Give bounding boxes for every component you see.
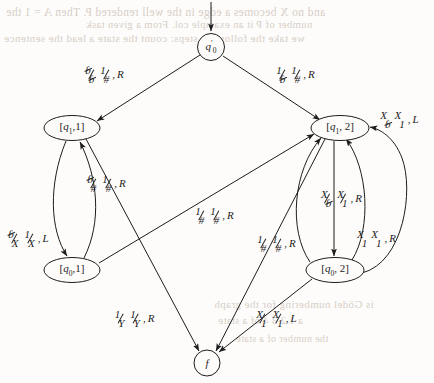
edge-q0_2-to-q1_2-outer	[362, 127, 407, 273]
edge-q0_2-to-q1_2-left	[296, 138, 321, 262]
node-f[interactable]	[194, 350, 220, 376]
edge-q1_2-to-f	[216, 139, 325, 351]
node-q1-2[interactable]	[311, 116, 369, 141]
diagram-canvas: and no X becomes a edge in the well rend…	[0, 0, 434, 383]
edge-q0_2-to-q1_2-inner	[346, 139, 365, 260]
edge-q0prime-to-q1_1	[97, 55, 200, 121]
node-q0-2[interactable]	[306, 258, 364, 283]
node-q1-1[interactable]	[44, 116, 100, 141]
graph-svg	[0, 0, 434, 383]
edges-group	[53, 2, 406, 352]
edge-q0_2-to-f	[219, 279, 312, 352]
node-q0prime[interactable]	[198, 34, 225, 61]
edge-q0_1-to-q1_2	[99, 134, 314, 263]
edge-q0prime-to-q1_2	[223, 56, 320, 120]
node-q0-1[interactable]	[44, 258, 100, 283]
edge-q0_1-to-q1_1	[80, 142, 96, 258]
nodes-group	[44, 34, 369, 377]
edge-q1_1-to-q0_1	[53, 141, 67, 256]
edge-q1_1-to-f	[86, 139, 199, 351]
